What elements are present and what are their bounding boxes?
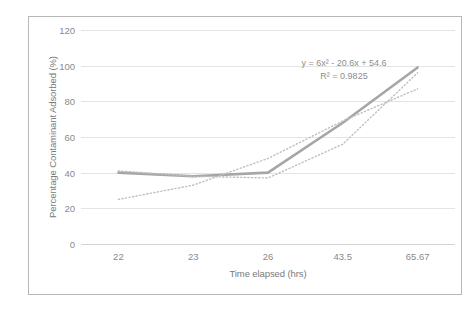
series-line <box>118 89 417 200</box>
r-squared-text: R² = 0.9825 <box>269 70 419 83</box>
y-axis-tick-label: 60 <box>64 132 75 143</box>
x-axis-tick-label: 26 <box>263 251 274 262</box>
y-axis-tick-label: 120 <box>59 25 75 36</box>
y-axis-tick-label: 20 <box>64 203 75 214</box>
series-line <box>118 67 417 176</box>
trendline-equation-annotation: y = 6x² - 20.6x + 54.6 R² = 0.9825 <box>269 57 419 83</box>
equation-text: y = 6x² - 20.6x + 54.6 <box>269 57 419 70</box>
x-axis-tick-label: 23 <box>188 251 199 262</box>
x-axis-tick-label: 22 <box>113 251 124 262</box>
x-axis-tick-label: 65.67 <box>406 251 430 262</box>
series-line <box>118 73 417 178</box>
y-axis-tick-label: 0 <box>70 239 75 250</box>
chart-frame: Percentage Contaminant Adsorbed (%) 0204… <box>28 16 462 295</box>
y-axis-tick-label: 40 <box>64 167 75 178</box>
y-axis-tick-label: 80 <box>64 96 75 107</box>
gridline <box>81 244 455 245</box>
plot-area: 020406080100120 22232643.565.67 Time ela… <box>81 30 455 244</box>
y-axis-title: Percentage Contaminant Adsorbed (%) <box>47 21 65 253</box>
x-axis-title: Time elapsed (hrs) <box>81 268 455 279</box>
x-axis-tick-label: 43.5 <box>334 251 353 262</box>
y-axis-tick-label: 100 <box>59 60 75 71</box>
